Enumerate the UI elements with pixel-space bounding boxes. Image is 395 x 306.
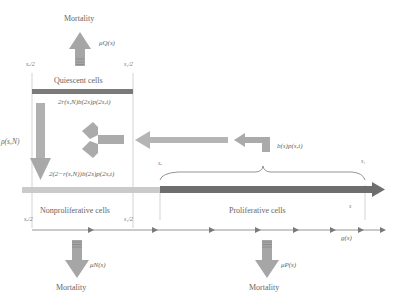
quiescent-left-bound: sₒ/2 (26, 61, 35, 67)
proliferative-mu-label: μP(s) (281, 262, 296, 269)
nonproliferative-mu-label: μN(s) (90, 262, 106, 269)
top-mu-label: μQ(s) (99, 40, 115, 47)
activation-label: ρ(s,N) (1, 138, 19, 146)
main-axis-arrowhead-icon (372, 182, 385, 197)
quiescent-bar (32, 89, 133, 94)
boundary-lines (32, 73, 365, 228)
growth-label: g(s) (341, 235, 352, 242)
proliferative-mortality-label: Mortality (249, 284, 279, 292)
activation-arrow-icon (30, 103, 51, 180)
quiescent-right-bound: s₁/2 (124, 61, 133, 67)
diagram-canvas (0, 0, 395, 306)
growth-axis (32, 227, 386, 233)
top-mortality-arrow-icon (69, 32, 91, 66)
division-source-arrow-icon (234, 133, 270, 152)
proliferative-left-bound: sₒ (158, 160, 162, 166)
nonproliferative-left-bound: sₒ/2 (24, 216, 33, 222)
division-flow-arrow-icon (135, 131, 228, 149)
nonproliferative-bar (22, 187, 160, 193)
division-split-arrow-icon (82, 122, 124, 158)
nonproliferative-right-bound: s₁/2 (124, 216, 133, 222)
return-to-quiescent-label: 2r(s,N)b(2s)p(2s,t) (58, 99, 111, 106)
nonproliferative-mortality-arrow-icon (65, 240, 89, 278)
proliferative-label: Proliferative cells (229, 207, 286, 215)
proliferative-bar (160, 186, 378, 193)
nonproliferative-mortality-label: Mortality (56, 284, 86, 292)
size-axis-label: s (349, 203, 351, 209)
proliferative-brace (160, 166, 365, 180)
nonproliferative-label: Nonproliferative cells (40, 207, 110, 215)
proliferative-right-bound: s₁ (361, 158, 365, 164)
top-mortality-label: Mortality (64, 15, 94, 23)
proliferative-mortality-arrow-icon (255, 240, 279, 278)
to-nonproliferative-label: 2(2−r(s,N))b(2s)p(2s,t) (49, 171, 114, 178)
quiescent-label: Quiescent cells (54, 77, 103, 85)
division-label: b(s)p(s,t) (277, 143, 302, 150)
